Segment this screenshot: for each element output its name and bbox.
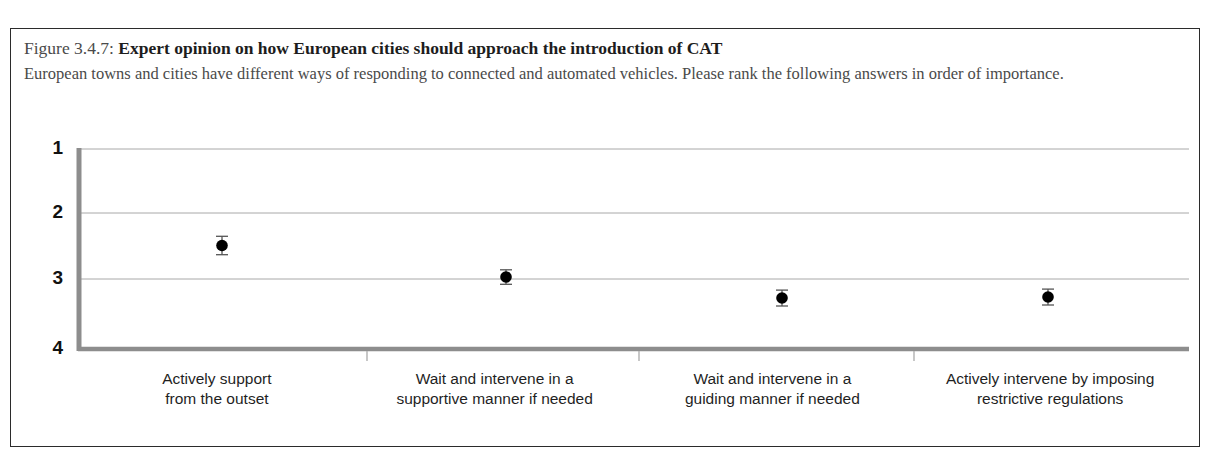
- chart-svg: [11, 29, 1201, 448]
- figure-title: Figure 3.4.7: Expert opinion on how Euro…: [24, 37, 1174, 59]
- x-axis-label-line-1a: Actively support: [78, 369, 356, 389]
- x-axis-label-line-3b: guiding manner if needed: [634, 389, 912, 409]
- x-axis-label-line-2b: supportive manner if needed: [356, 389, 634, 409]
- y-axis-label-4: 4: [33, 337, 63, 359]
- figure-frame: Figure 3.4.7: Expert opinion on how Euro…: [10, 28, 1200, 447]
- data-point-group-3: [776, 290, 788, 306]
- gridlines: [78, 149, 1189, 279]
- figure-title-text: Expert opinion on how European cities sh…: [118, 38, 722, 58]
- data-point-marker-4: [1042, 291, 1054, 303]
- x-axis-label-category-3: Wait and intervene in a guiding manner i…: [634, 369, 912, 409]
- x-axis-label-category-2: Wait and intervene in a supportive manne…: [356, 369, 634, 409]
- chart-plot-region: 1 2 3 4 Actively support from the outset…: [11, 29, 1201, 448]
- x-axis-label-line-1b: from the outset: [78, 389, 356, 409]
- data-point-marker-3: [776, 292, 788, 304]
- x-axis-label-row: Actively support from the outset Wait an…: [78, 369, 1189, 409]
- figure-subtitle: European towns and cities have different…: [24, 63, 1154, 84]
- axis-lines: [78, 148, 1189, 351]
- x-axis-ticks: [367, 351, 914, 361]
- x-axis-label-line-4a: Actively intervene by imposing: [911, 369, 1189, 389]
- data-point-marker-1: [216, 240, 228, 252]
- x-axis-label-line-3a: Wait and intervene in a: [634, 369, 912, 389]
- x-axis-label-line-2a: Wait and intervene in a: [356, 369, 634, 389]
- data-point-group-4: [1042, 289, 1054, 305]
- x-axis-label-line-4b: restrictive regulations: [911, 389, 1189, 409]
- x-axis-label-category-4: Actively intervene by imposing restricti…: [911, 369, 1189, 409]
- y-axis-label-1: 1: [33, 137, 63, 159]
- y-axis-label-2: 2: [33, 201, 63, 223]
- data-point-marker-2: [500, 271, 512, 283]
- data-point-group-2: [500, 270, 512, 285]
- y-axis-label-3: 3: [33, 267, 63, 289]
- figure-caption-block: Figure 3.4.7: Expert opinion on how Euro…: [24, 37, 1174, 84]
- figure-number: Figure 3.4.7:: [24, 38, 114, 58]
- data-point-group-1: [216, 236, 228, 254]
- x-axis-label-category-1: Actively support from the outset: [78, 369, 356, 409]
